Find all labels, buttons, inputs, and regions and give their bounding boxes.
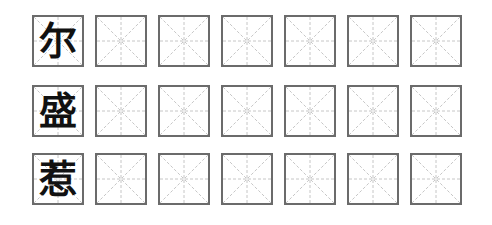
mi-grid-guide-icon <box>160 155 208 203</box>
mi-grid-guide-icon <box>286 155 334 203</box>
practice-cell[interactable] <box>158 153 210 205</box>
mi-grid-guide-icon <box>286 17 334 65</box>
model-character: 盛 <box>34 87 82 135</box>
practice-cell[interactable] <box>284 85 336 137</box>
practice-cell[interactable] <box>284 153 336 205</box>
mi-grid-guide-icon <box>160 87 208 135</box>
mi-grid-guide-icon <box>97 87 145 135</box>
mi-grid-guide-icon <box>412 155 460 203</box>
mi-grid-guide-icon <box>223 87 271 135</box>
mi-grid-guide-icon <box>97 155 145 203</box>
practice-cell[interactable] <box>221 15 273 67</box>
model-character: 尔 <box>34 17 82 65</box>
practice-cell[interactable] <box>347 15 399 67</box>
mi-grid-guide-icon <box>349 87 397 135</box>
practice-cell[interactable] <box>158 85 210 137</box>
model-character: 惹 <box>34 155 82 203</box>
practice-cell[interactable] <box>410 85 462 137</box>
practice-cell[interactable] <box>347 85 399 137</box>
practice-row: 尔 <box>0 15 492 67</box>
mi-grid-guide-icon <box>97 17 145 65</box>
practice-cell[interactable] <box>95 85 147 137</box>
practice-cell[interactable] <box>95 153 147 205</box>
mi-grid-guide-icon <box>412 17 460 65</box>
practice-cell[interactable] <box>284 15 336 67</box>
practice-cell[interactable] <box>410 15 462 67</box>
mi-grid-guide-icon <box>286 87 334 135</box>
mi-grid-guide-icon <box>223 155 271 203</box>
model-character-cell: 盛 <box>32 85 84 137</box>
model-character-cell: 尔 <box>32 15 84 67</box>
practice-cell[interactable] <box>221 85 273 137</box>
mi-grid-guide-icon <box>349 155 397 203</box>
mi-grid-guide-icon <box>349 17 397 65</box>
mi-grid-guide-icon <box>160 17 208 65</box>
model-character-cell: 惹 <box>32 153 84 205</box>
practice-cell[interactable] <box>158 15 210 67</box>
practice-row: 惹 <box>0 153 492 205</box>
practice-cell[interactable] <box>221 153 273 205</box>
practice-cell[interactable] <box>95 15 147 67</box>
practice-cell[interactable] <box>347 153 399 205</box>
practice-cell[interactable] <box>410 153 462 205</box>
mi-grid-guide-icon <box>223 17 271 65</box>
mi-grid-guide-icon <box>412 87 460 135</box>
practice-row: 盛 <box>0 85 492 137</box>
